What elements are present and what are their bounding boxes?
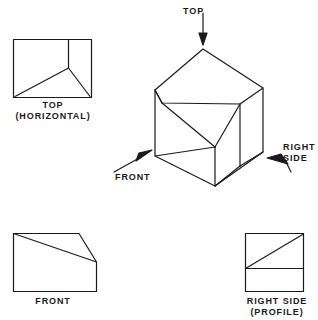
top-arrow-label: TOP bbox=[183, 6, 223, 17]
front-view-diagonal bbox=[14, 234, 97, 263]
right-side-arrow-label: RIGHT SIDE bbox=[283, 142, 318, 164]
front-view-outline bbox=[14, 234, 97, 292]
technical-drawing bbox=[0, 0, 318, 320]
front-view-drawing bbox=[14, 234, 97, 292]
right-side-view-drawing bbox=[246, 234, 304, 292]
top-view-diagonal-left bbox=[15, 68, 69, 97]
iso-bottom-front-edge bbox=[215, 166, 240, 186]
iso-chamfer-diagonal-right bbox=[215, 104, 240, 147]
top-arrow bbox=[199, 13, 207, 45]
figure-canvas: TOP (HORIZONTAL) FRONT RIGHT SIDE (PROFI… bbox=[0, 0, 318, 320]
isometric-solid-drawing bbox=[155, 49, 263, 186]
right-side-view-diagonal bbox=[246, 234, 304, 269]
top-view-drawing bbox=[14, 40, 92, 98]
front-arrow-head bbox=[136, 150, 152, 161]
iso-right-face-outline bbox=[215, 88, 263, 186]
top-view-outline bbox=[14, 40, 92, 98]
iso-top-face bbox=[155, 49, 263, 104]
top-arrow-head bbox=[199, 33, 207, 45]
front-arrow-label: FRONT bbox=[115, 172, 165, 183]
top-view-label: TOP (HORIZONTAL) bbox=[13, 100, 93, 122]
front-arrow bbox=[114, 150, 152, 172]
iso-lower-inclined-edge bbox=[155, 147, 215, 156]
iso-bottom-back-edge bbox=[240, 152, 263, 166]
right-side-view-label: RIGHT SIDE (PROFILE) bbox=[241, 296, 313, 318]
front-view-label: FRONT bbox=[13, 296, 93, 307]
iso-chamfer-diagonal-left bbox=[162, 103, 215, 147]
iso-corner-edge bbox=[155, 90, 162, 103]
right-side-view-outline bbox=[246, 234, 304, 292]
top-view-diagonal-right bbox=[69, 68, 91, 97]
